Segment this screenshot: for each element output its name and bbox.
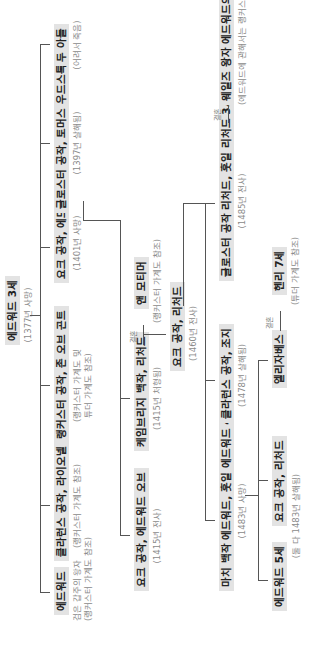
connector-line	[205, 380, 215, 381]
node-note: (튜더 가계도 참조)	[290, 231, 301, 311]
node-name: 두 아들	[54, 24, 69, 66]
node-richard-york: 요크 공작, 리처드 (1460년 전사)	[166, 296, 199, 371]
node-lionel-clarence: 클라런스 공작, 라이오넬 (랭커스터 가계도 참조)	[50, 451, 83, 561]
node-note: (1483년 사망)	[237, 431, 248, 591]
node-note: (1478년 살해됨)	[237, 328, 248, 423]
node-george-clarence: 클라런스 공작, 조지 (1478년 살해됨)	[215, 328, 248, 423]
node-richard-cambridge: 케임브리지 백작, 리처드 (1415년 처형됨)	[130, 346, 163, 451]
node-note: (에드워드에 관해서는 랭커스터 가계도 참조)	[237, 0, 248, 105]
connector-line	[120, 535, 130, 536]
node-note: (랭커스터 가계도 참조)	[72, 451, 83, 561]
connector-line	[258, 480, 268, 481]
node-name: 랭커스터 공작, 존 오브 곤트	[54, 306, 69, 443]
connector-line	[120, 398, 130, 399]
node-note: 튜더 가계도 참조)	[83, 328, 94, 443]
node-note: (1415년 전사)	[152, 481, 163, 591]
node-edward-black-prince: 에드워드 검은 갑주의 왕자 (랭커스터 가계도 참조)	[50, 561, 94, 621]
node-name: 요크 공작, 리처드	[272, 436, 287, 525]
marriage-line	[143, 325, 144, 345]
generation1-bus	[40, 45, 41, 593]
node-henry-vii: 헨리 7세 (튜더 가계도 참조)	[268, 231, 301, 311]
node-name: 엘리자베스	[272, 330, 287, 388]
node-note: (둘 다 1483년 살해됨)	[291, 421, 302, 611]
node-name: 글로스터 공작 리처드, 훗일 리처드 3세	[219, 93, 234, 281]
node-name: 요크 공작, 에드워드 오브	[134, 468, 149, 591]
marriage-label: 결혼	[212, 109, 222, 121]
connector-line	[205, 203, 215, 204]
node-name: 헨리 7세	[272, 247, 287, 296]
node-john-of-gaunt: 랭커스터 공작, 존 오브 곤트 (랭커스터 가계도 및 튜더 가계도 참조)	[50, 328, 94, 443]
connector-line	[258, 360, 268, 361]
connector-line	[258, 580, 268, 581]
node-name: 글로스터 공작, 토머스 우드스톡	[54, 60, 69, 213]
connector-line	[205, 520, 215, 521]
connector-line	[83, 201, 84, 221]
node-edward-of-york: 요크 공작, 에드워드 오브 (1415년 전사)	[130, 481, 163, 591]
node-name: 클라런스 공작, 조지	[219, 324, 234, 423]
node-note: (1460년 전사)	[188, 296, 199, 371]
node-note: (랭커스터 가계도 및	[72, 328, 83, 443]
node-name: 에드워드 5세	[272, 542, 287, 611]
node-edmund-york: 요크 공작, 에드먼드 (1401년 사망)	[50, 203, 83, 283]
node-name: 에드워드	[54, 567, 69, 615]
node-edward-v: 에드워드 5세	[268, 551, 287, 611]
node-note: 검은 갑주의 왕자	[72, 561, 83, 621]
connector-line	[40, 505, 50, 506]
node-elizabeth: 엘리자베스	[268, 329, 287, 389]
node-note: (랭커스터 가계도 참조)	[152, 243, 163, 323]
node-anne-mortimer: 앤 모티머 (랭커스터 가계도 참조)	[130, 243, 163, 323]
marriage-line	[228, 105, 229, 123]
marriage-line	[280, 311, 281, 331]
node-note: (1415년 처형됨)	[152, 346, 163, 451]
generation4-bus	[205, 203, 206, 521]
connector-line	[183, 203, 184, 306]
node-note: (1401년 사망)	[72, 203, 83, 283]
connector-line	[40, 247, 50, 248]
node-richard-york-prince: 요크 공작, 리처드	[268, 436, 287, 526]
connector-line	[40, 143, 50, 144]
connector-line	[245, 495, 258, 496]
connector-line	[143, 334, 166, 335]
node-name: 웨일즈 왕자 에드워드의 미망인 앤	[219, 0, 234, 105]
node-edward-iv: 마치 백작 에드워드, 훗일 에드워드 4세 (1483년 사망)	[215, 431, 248, 591]
node-name: 앤 모티머	[134, 257, 149, 309]
marriage-label: 결혼	[264, 317, 274, 329]
root-name: 에드워드 3세	[5, 276, 20, 345]
generation2-bus	[120, 220, 121, 536]
node-name: 마치 백작 에드워드, 훗일 에드워드 4세	[219, 403, 234, 591]
node-note: (1397년 살해됨)	[72, 73, 83, 213]
connector-line	[40, 44, 50, 45]
marriage-label: 결혼	[128, 331, 138, 343]
family-tree-diagram: 에드워드 3세 (1377년 사망) 에드워드 검은 갑주의 왕자 (랭커스터 …	[0, 0, 320, 661]
node-note: (랭커스터 가계도 참조)	[83, 561, 94, 621]
node-note: (1485년 전사)	[237, 121, 248, 281]
node-two-sons: 두 아들 (어려서 죽음)	[50, 20, 83, 70]
connector-line	[40, 385, 50, 386]
node-name: 클라런스 공작, 라이오넬	[54, 442, 69, 561]
connector-line	[30, 315, 40, 316]
node-name: 케임브리지 백작, 리처드	[134, 332, 149, 451]
node-richard-iii: 글로스터 공작 리처드, 훗일 리처드 3세 (1485년 전사)	[215, 121, 248, 281]
node-thomas-woodstock: 글로스터 공작, 토머스 우드스톡 (1397년 살해됨)	[50, 73, 83, 213]
connector-line	[183, 203, 205, 204]
connector-line	[83, 220, 120, 221]
node-anne-widow: 웨일즈 왕자 에드워드의 미망인 앤 (에드워드에 관해서는 랭커스터 가계도 …	[215, 0, 248, 105]
generation5-bus	[258, 361, 259, 581]
connector-line	[40, 592, 50, 593]
node-note: (어려서 죽음)	[72, 20, 83, 70]
princes-note: (둘 다 1483년 살해됨)	[288, 421, 302, 611]
